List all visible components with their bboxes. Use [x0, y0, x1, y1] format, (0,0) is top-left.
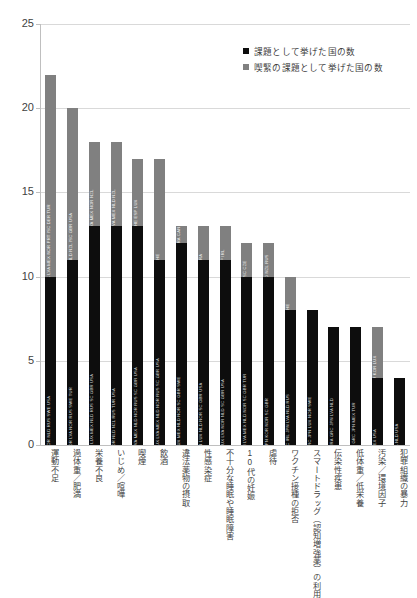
x-axis-label: 飲酒 [153, 449, 166, 466]
y-tick-label: 20 [4, 102, 34, 113]
bar-segment-urgent: BEL FLU CHE MEX NLD NZL ISC GBR USA [67, 108, 78, 260]
bar-segment-issue: CAN CZE ESP IRL JPN KOR LVA NOR RUS SWE … [67, 260, 78, 445]
bar-segment-issue: BEL FLU CZE FRA GRC IRL JPN LVA NLD RUS [285, 310, 296, 445]
bar-segment-country-codes: BEL FLU KOR LUX [373, 356, 377, 378]
x-axis-label: 喫煙 [131, 449, 144, 466]
x-axis-label: ワクチン接種の拒否 [284, 449, 297, 524]
y-tick-label: 5 [4, 355, 34, 366]
bar-segment-urgent: CHE [154, 159, 165, 260]
bar-segment-country-codes: BEL FLU CHE IRL JPN KOR NLD NZL RUS TUR … [112, 388, 116, 445]
bar-stack: CHEBEL FLU CZE ESP FRA GRC IRL JPN LUX L… [154, 159, 165, 445]
bar-segment-country-codes: FRA NLD NZL RUS [264, 255, 268, 277]
bar-segment-issue: CHE FRA GRC JPN KOR NLD RUS SWE USA [45, 277, 56, 445]
x-axis-label: 過体重／肥満 [66, 449, 79, 499]
bar-stack: FRABEL FLU CAN GRC FRA JPN LUX NLD NOR S… [198, 226, 209, 445]
bar-segment-country-codes: BEL FRA GRC LVA MEX NLD NZL [112, 189, 116, 226]
bar-segment-urgent: CAN CZE IRL LVA MEX NOR NZL [89, 142, 100, 226]
bar-segment-country-codes: BEL FLU CAN FRA GRC JPN MEX TUR [351, 402, 355, 445]
bar-segment-urgent: BEL FRA CAN [176, 226, 187, 243]
bar-segment-country-codes: IRL MEX USA [373, 429, 377, 445]
bar-stack: BEL FLU CAN CHE FRA GRC JPN LVA NLD [328, 327, 339, 445]
bar-stack: BEL FRA NLD USA [394, 378, 405, 445]
bar-segment-issue: BEL FLU CAN FRA GRC JPN MEX TUR [350, 327, 361, 445]
x-axis-labels: 運動不足過体重／肥満栄養不良いじめ／喧嘩喫煙飲酒違法薬物の摂取性感染症不十分な睡… [40, 449, 410, 557]
bar-segment-urgent: BEL FLU CAN CZE ESP IRL LUX LVA MEX NOR … [45, 75, 56, 277]
bar-stack: CHEBEL FLU CZE FRA GRC IRL JPN LVA NLD R… [285, 277, 296, 445]
bar-stack: BEL FLU CAN FRA GRC JPN LUX NOR SWE [307, 310, 318, 445]
bar-stack: BEL FLU CAN CZE ESP IRL LUX LVA MEX NOR … [45, 75, 56, 445]
bar-segment-country-codes: BEL FLU CAN CZE FRA GRC JPN LVA MEX NLD … [134, 367, 138, 445]
bar-segment-country-codes: ESP IRL [221, 249, 225, 260]
bar-stack: BEL FLU CAN FRA GRC JPN MEX TUR [350, 327, 361, 445]
x-axis-label: 違法薬物の摂取 [175, 449, 188, 507]
y-tick-label: 25 [4, 18, 34, 29]
bar-stack: BEL FLU KOR LUXIRL MEX USA [372, 327, 383, 445]
bar-segment-country-codes: CHE [286, 304, 290, 311]
x-axis-label: 栄養不良 [88, 449, 101, 482]
bar-segment-issue: BEL FLU CAN CHE FRA GRC JPN LVA NLD [328, 327, 339, 445]
bar-stack: ESP IRLBEL FLU CAN GRC IRL JPN LUX LVA N… [220, 226, 231, 445]
y-tick-label: 0 [4, 439, 34, 450]
legend-item: 課題として挙げた国の数 [243, 44, 415, 57]
bar-segment-country-codes: BEL FRA CAN [177, 226, 181, 243]
bar-segment-country-codes: BEL FLU BEL IRL FRA GRC JPN LUX MEX NLD … [90, 373, 94, 445]
bar-segment-country-codes: CHE FRA GRC JPN KOR NLD RUS SWE USA [47, 396, 51, 445]
bar-segment-issue: BEL FLU FRA GRC JPN KOR NOR SC GBR [263, 277, 274, 445]
bar-stack: BEL FRA CANBEL FLU CHE FRA GRC JPN LUX M… [176, 226, 187, 445]
bar-segment-issue: BEL FLU CHE IRL JPN KOR NLD NZL RUS TUR … [111, 226, 122, 445]
bar-segment-country-codes: CAN CZE ESP IRL JPN KOR LVA NOR RUS SWE … [68, 387, 72, 445]
bar-segment-issue: BEL FLU CAN CZE FRA GRC JPN LVA MEX NLD … [132, 226, 143, 445]
bar-segment-country-codes: BEL FLU CAN CHE FRA GRC JPN LVA NLD [330, 398, 334, 445]
x-axis-label: いじめ／喧嘩 [110, 449, 123, 499]
legend-item: 喫緊の課題として挙げた国の数 [243, 60, 415, 73]
x-axis-label: 犯罪組織の暴力 [393, 449, 406, 507]
bar-segment-issue: IRL MEX USA [372, 378, 383, 445]
bar-segment-country-codes: BEL FLU CZE FRA GRC IRL JPN LVA NLD RUS [286, 394, 290, 445]
bar-segment-urgent: BEL FLU KOR LUX [372, 327, 383, 378]
bar-segment-issue: BEL FLU CAN FRA GRC JPN LUX NOR SWE [307, 310, 318, 445]
bar-segment-issue: BEL FRA NLD USA [394, 378, 405, 445]
bar-segment-urgent: FRA NLD NZL RUS [263, 243, 274, 277]
bar-stack: RUS SC CZEBEL FLU CAN FRA GRC IRL JPN LV… [241, 243, 252, 445]
bar-segment-issue: BEL FLU CAN GRC FRA JPN LUX NLD NOR SC G… [198, 260, 209, 445]
bar-segment-country-codes: BEL FLU CAN FRA GRC JPN LUX NOR SWE [308, 396, 312, 445]
bar-segment-country-codes: BEL FLU CZE ESP FRA GRC IRL JPN LUX LVA … [156, 358, 160, 445]
x-axis-label: 性感染症 [197, 449, 210, 482]
bar-segment-issue: BEL FLU BEL IRL FRA GRC JPN LUX MEX NLD … [89, 226, 100, 445]
chart-legend: 課題として挙げた国の数喫緊の課題として挙げた国の数 [243, 44, 415, 76]
bar-stack: BEL FRA GRC LVA MEX NLD NZLBEL FLU CHE I… [111, 142, 122, 445]
bar-segment-urgent: BEL FRA CHE ESP LUX [132, 159, 143, 226]
legend-label: 課題として挙げた国の数 [254, 45, 355, 57]
bar-segment-country-codes: BEL FRA NLD USA [395, 423, 399, 445]
bar-stack: BEL FLU CHE MEX NLD NZL ISC GBR USACAN C… [67, 108, 78, 445]
bar-stack: FRA NLD NZL RUSBEL FLU FRA GRC JPN KOR N… [263, 243, 274, 445]
x-axis-label: 汚染／環境因子 [371, 449, 384, 507]
bar-segment-country-codes: BEL FLU CAN GRC FRA JPN LUX NLD NOR SC G… [199, 382, 203, 445]
x-axis-label: 運動不足 [44, 449, 57, 482]
bar-segment-country-codes: BEL FLU FRA GRC JPN KOR NOR SC GBR [264, 398, 268, 445]
bar-segment-country-codes: BEL FRA CHE ESP LUX [134, 199, 138, 226]
bar-segment-country-codes: CAN CZE IRL LVA MEX NOR NZL [90, 189, 94, 226]
bar-segment-issue: BEL FLU CAN FRA GRC IRL JPN LVA MEX NLD … [241, 277, 252, 445]
bar-stack: CAN CZE IRL LVA MEX NOR NZLBEL FLU BEL I… [89, 142, 100, 445]
legend-label: 喫緊の課題として挙げた国の数 [254, 61, 383, 73]
x-axis-label: スマートドラッグ（認知増強薬）の利用 [306, 449, 319, 598]
legend-swatch-icon [243, 64, 249, 70]
bar-segment-country-codes: CHE [156, 253, 160, 260]
x-axis-label: 低体重／低栄養 [349, 449, 362, 507]
y-tick-label: 15 [4, 186, 34, 197]
x-axis-label: 虐待 [262, 449, 275, 466]
bar-segment-country-codes: RUS SC CZE [243, 261, 247, 277]
bar-segment-issue: BEL FLU CAN GRC IRL JPN LUX LVA NOR NLD … [220, 260, 231, 445]
bar-segment-issue: BEL FLU CZE ESP FRA GRC IRL JPN LUX LVA … [154, 260, 165, 445]
x-axis-label: 10代の妊娠 [240, 449, 253, 501]
bar-segment-urgent: ESP IRL [220, 226, 231, 260]
x-axis-label: 伝染性疾患 [327, 449, 340, 491]
bar-segment-urgent: CHE [285, 277, 296, 311]
bars-layer: BEL FLU CAN CZE ESP IRL LUX LVA MEX NOR … [40, 24, 410, 445]
bar-segment-country-codes: BEL FLU CHE MEX NLD NZL ISC GBR USA [68, 212, 72, 259]
bar-stack: BEL FRA CHE ESP LUXBEL FLU CAN CZE FRA G… [132, 159, 143, 445]
bar-segment-urgent: BEL FRA GRC LVA MEX NLD NZL [111, 142, 122, 226]
x-axis-line [40, 445, 410, 446]
